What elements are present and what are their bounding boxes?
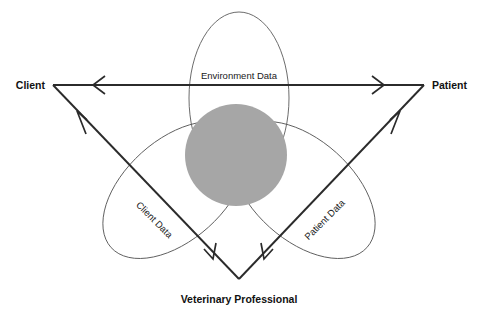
arrowhead-to-patient-right <box>390 111 400 134</box>
diagram-svg: Environment Data Client Data Patient Dat… <box>0 0 479 326</box>
flow-label-patient-data: Patient Data <box>302 197 347 242</box>
arrowhead-to-client-left <box>77 111 87 134</box>
shared-data-core-circle <box>185 104 287 206</box>
flow-label-environment-data: Environment Data <box>201 70 278 81</box>
vertex-label-patient: Patient <box>432 79 468 91</box>
vertex-label-client: Client <box>16 79 46 91</box>
vertex-label-veterinary-professional: Veterinary Professional <box>181 293 298 305</box>
diagram-canvas: Environment Data Client Data Patient Dat… <box>0 0 479 326</box>
